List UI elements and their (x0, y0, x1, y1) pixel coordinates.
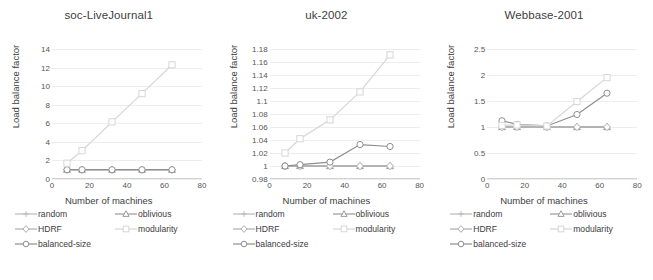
x-tick-label: 20 (85, 181, 94, 190)
legend-label: random (38, 209, 67, 219)
legend: randomobliviousHDRFmodularitybalanced-si… (449, 206, 649, 251)
legend-marker-modularity-icon (549, 224, 573, 234)
plot-area (487, 49, 637, 179)
legend-row: HDRFmodularity (232, 221, 432, 236)
y-tick-label: 4 (46, 137, 50, 146)
legend-label: modularity (356, 224, 396, 234)
legend-item-modularity[interactable]: modularity (332, 224, 432, 234)
chart-title: soc-LiveJournal1 (0, 7, 218, 23)
y-tick-label: 1.06 (252, 123, 268, 132)
y-tick-label: 10 (41, 82, 50, 91)
plot-wrapper: Load balance factor 0.9811.021.041.061.0… (218, 23, 436, 188)
legend-item-HDRF[interactable]: HDRF (449, 224, 549, 234)
legend-marker-HDRF-icon (449, 224, 473, 234)
y-tick-label: 1.5 (474, 97, 485, 106)
legend-label: random (473, 209, 502, 219)
x-tick-label: 40 (558, 181, 567, 190)
x-tick-label: 20 (520, 181, 529, 190)
x-tick-label: 40 (123, 181, 132, 190)
y-tick-label: 1.16 (252, 58, 268, 67)
gridline (487, 179, 637, 180)
x-tick-label: 0 (485, 181, 489, 190)
legend-item-oblivious[interactable]: oblivious (332, 209, 432, 219)
legend-label: oblivious (573, 209, 606, 219)
legend-row: randomoblivious (232, 206, 432, 221)
series-balanced-size (64, 167, 175, 173)
legend-row: randomoblivious (449, 206, 649, 221)
y-axis-ticks: 02468101214 (18, 49, 50, 179)
legend-marker-balanced-size-icon (449, 239, 473, 249)
x-axis-label: Number of machines (218, 195, 436, 206)
legend-marker-modularity-icon (332, 224, 356, 234)
chart-panel-0: soc-LiveJournal1 Load balance factor 024… (0, 0, 218, 280)
series-layer (487, 49, 637, 179)
y-tick-label: 6 (46, 119, 50, 128)
x-tick-label: 40 (340, 181, 349, 190)
legend: randomobliviousHDRFmodularitybalanced-si… (232, 206, 432, 251)
y-tick-label: 1.12 (252, 84, 268, 93)
x-tick-label: 60 (378, 181, 387, 190)
series-balanced-size (281, 141, 392, 169)
legend-marker-random-icon (232, 209, 256, 219)
legend-row: HDRFmodularity (14, 221, 214, 236)
legend-marker-HDRF-icon (14, 224, 38, 234)
y-tick-label: 14 (41, 45, 50, 54)
series-modularity (64, 62, 175, 167)
legend-item-oblivious[interactable]: oblivious (114, 209, 214, 219)
legend-label: HDRF (473, 224, 497, 234)
legend-label: balanced-size (473, 239, 526, 249)
legend-row: balanced-size (449, 236, 649, 251)
x-tick-label: 80 (633, 181, 642, 190)
x-tick-label: 20 (303, 181, 312, 190)
plot-area (270, 49, 420, 179)
x-tick-label: 80 (415, 181, 424, 190)
y-tick-label: 0.5 (474, 149, 485, 158)
legend-marker-balanced-size-icon (232, 239, 256, 249)
legend-label: balanced-size (38, 239, 91, 249)
x-axis-label: Number of machines (0, 195, 218, 206)
y-tick-label: 1 (481, 123, 485, 132)
y-tick-label: 1.1 (256, 97, 267, 106)
legend-label: modularity (138, 224, 178, 234)
y-tick-label: 2.5 (474, 45, 485, 54)
legend-item-random[interactable]: random (449, 209, 549, 219)
legend-item-balanced-size[interactable]: balanced-size (449, 239, 549, 249)
legend-item-balanced-size[interactable]: balanced-size (14, 239, 114, 249)
plot-wrapper: Load balance factor 00.511.522.5 0204060… (435, 23, 653, 188)
x-tick-label: 0 (267, 181, 271, 190)
legend-item-random[interactable]: random (232, 209, 332, 219)
series-layer (270, 49, 420, 179)
y-tick-label: 1.04 (252, 136, 268, 145)
legend-marker-modularity-icon (114, 224, 138, 234)
y-tick-label: 0.98 (252, 175, 268, 184)
legend-label: modularity (573, 224, 613, 234)
x-axis-label: Number of machines (435, 195, 653, 206)
gridline (270, 179, 420, 180)
legend-marker-random-icon (14, 209, 38, 219)
series-layer (52, 49, 202, 179)
x-axis-ticks: 020406080 (52, 181, 202, 193)
x-tick-label: 60 (595, 181, 604, 190)
legend-item-HDRF[interactable]: HDRF (14, 224, 114, 234)
chart-panel-group: soc-LiveJournal1 Load balance factor 024… (0, 0, 653, 280)
legend-item-random[interactable]: random (14, 209, 114, 219)
legend-item-modularity[interactable]: modularity (549, 224, 649, 234)
plot-area (52, 49, 202, 179)
y-tick-label: 1.02 (252, 149, 268, 158)
legend-item-oblivious[interactable]: oblivious (549, 209, 649, 219)
y-tick-label: 12 (41, 63, 50, 72)
legend-marker-oblivious-icon (114, 209, 138, 219)
series-modularity (281, 52, 392, 156)
legend-label: oblivious (138, 209, 171, 219)
chart-title: Webbase-2001 (435, 7, 653, 23)
x-tick-label: 0 (50, 181, 54, 190)
legend-row: randomoblivious (14, 206, 214, 221)
legend-marker-oblivious-icon (549, 209, 573, 219)
legend-item-HDRF[interactable]: HDRF (232, 224, 332, 234)
y-axis-ticks: 00.511.522.5 (453, 49, 485, 179)
x-axis-ticks: 020406080 (487, 181, 637, 193)
legend-marker-HDRF-icon (232, 224, 256, 234)
legend-item-balanced-size[interactable]: balanced-size (232, 239, 332, 249)
legend-item-modularity[interactable]: modularity (114, 224, 214, 234)
legend-label: balanced-size (256, 239, 309, 249)
